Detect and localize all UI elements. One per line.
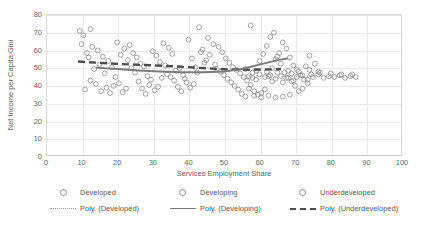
data-point	[243, 94, 248, 99]
data-point	[275, 70, 280, 75]
data-point	[156, 84, 161, 89]
data-point	[223, 56, 228, 61]
legend-item-poly-underdeveloped[interactable]: Poly. (Underdeveloped)	[286, 204, 406, 213]
legend-row-markers: Developed Developing Underdeveloped	[46, 188, 406, 197]
scatter-chart: 01020304050607080 0102030405060708090100…	[0, 0, 422, 231]
data-point	[305, 77, 310, 82]
data-point	[147, 83, 152, 88]
data-point	[216, 44, 221, 49]
data-point	[124, 86, 129, 91]
data-point	[136, 79, 141, 84]
solid-line-icon	[166, 208, 200, 209]
data-point	[170, 52, 175, 57]
data-point	[113, 75, 118, 80]
data-point	[312, 61, 317, 66]
data-point	[339, 72, 344, 77]
data-point	[122, 46, 127, 51]
data-point	[291, 63, 296, 68]
legend-row-trendlines: Poly. (Developed) Poly. (Developing) Pol…	[46, 204, 406, 213]
data-point	[150, 49, 155, 54]
legend-label-developed: Developed	[80, 188, 116, 197]
data-point	[77, 28, 82, 33]
data-point	[179, 89, 184, 94]
legend-item-poly-developed[interactable]: Poly. (Developed)	[46, 204, 166, 213]
data-point	[134, 55, 139, 60]
data-point	[307, 53, 312, 58]
data-point	[207, 52, 212, 57]
series-developing	[197, 23, 321, 100]
data-point	[257, 59, 262, 64]
data-point	[293, 83, 298, 88]
data-point	[270, 79, 275, 84]
data-point	[268, 35, 273, 40]
data-point	[175, 84, 180, 89]
data-point	[111, 83, 116, 88]
open-circle-icon	[166, 189, 200, 196]
data-point	[154, 53, 159, 58]
data-point	[90, 44, 95, 49]
data-point	[158, 60, 163, 65]
data-point	[300, 86, 305, 91]
data-point	[307, 68, 312, 73]
data-point	[88, 78, 93, 83]
data-point	[140, 86, 145, 91]
data-point	[271, 30, 276, 35]
data-point	[191, 82, 196, 87]
data-point	[197, 25, 202, 30]
data-point	[280, 40, 285, 45]
data-point	[279, 61, 284, 66]
data-point	[143, 91, 148, 96]
data-point	[88, 27, 93, 32]
data-point	[166, 45, 171, 50]
chart-legend: Developed Developing Underdeveloped Poly…	[46, 188, 406, 220]
legend-label-poly-developing: Poly. (Developing)	[200, 204, 261, 213]
data-point	[287, 92, 292, 97]
open-circle-icon	[46, 189, 80, 196]
data-point	[108, 91, 113, 96]
data-point	[227, 60, 232, 65]
data-point	[79, 42, 84, 47]
data-point	[161, 41, 166, 46]
data-point	[291, 78, 296, 83]
data-point	[263, 87, 268, 92]
data-point	[125, 58, 130, 63]
data-point	[236, 87, 241, 92]
data-point	[83, 87, 88, 92]
data-point	[95, 48, 100, 53]
legend-item-underdeveloped[interactable]: Underdeveloped	[286, 188, 406, 197]
data-point	[102, 71, 107, 76]
dotted-line-icon	[46, 208, 80, 209]
data-point	[101, 54, 106, 59]
data-point	[280, 80, 285, 85]
data-point	[280, 94, 285, 99]
legend-item-developed[interactable]: Developed	[46, 188, 166, 197]
data-point	[264, 44, 269, 49]
data-point	[257, 72, 262, 77]
data-point	[99, 89, 104, 94]
data-point	[104, 85, 109, 90]
legend-label-poly-developed: Poly. (Developed)	[80, 204, 139, 213]
legend-item-poly-developing[interactable]: Poly. (Developing)	[166, 204, 286, 213]
data-point	[190, 56, 195, 61]
data-point	[266, 93, 271, 98]
legend-label-developing: Developing	[200, 188, 238, 197]
legend-label-poly-underdeveloped: Poly. (Underdeveloped)	[320, 204, 398, 213]
data-point	[118, 52, 123, 57]
series-underdeveloped	[77, 27, 206, 97]
data-point	[131, 51, 136, 56]
data-point	[93, 82, 98, 87]
data-point	[261, 52, 266, 57]
open-circle-icon	[286, 189, 320, 196]
data-point	[248, 23, 253, 28]
data-point	[92, 67, 97, 72]
data-point	[115, 40, 120, 45]
data-point	[81, 33, 86, 38]
data-point	[284, 46, 289, 51]
data-point	[86, 55, 91, 60]
data-point	[149, 77, 154, 82]
data-point	[159, 76, 164, 81]
legend-item-developing[interactable]: Developing	[166, 188, 286, 197]
data-point	[220, 50, 225, 55]
data-point	[117, 81, 122, 86]
dashed-line-icon	[286, 208, 320, 210]
